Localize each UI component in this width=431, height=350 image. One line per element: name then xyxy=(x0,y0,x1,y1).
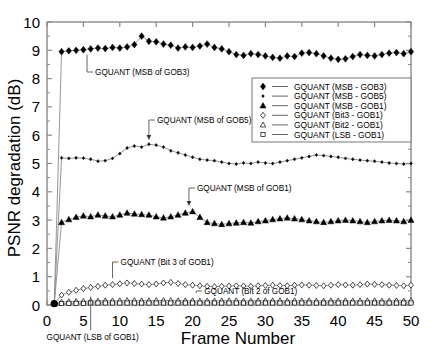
legend-item-label: GQUANT (Bit3 - GOB1) xyxy=(294,110,383,120)
chart-legend[interactable]: GQUANT (MSB - GOB3)GQUANT (MSB - GOB5)GQ… xyxy=(252,78,411,142)
data-point-marker xyxy=(118,301,122,305)
y-tick-label: 2 xyxy=(32,240,40,257)
legend-item-label: GQUANT (LSB - GOB1) xyxy=(294,130,384,140)
data-point-marker xyxy=(183,301,187,305)
data-point-marker xyxy=(176,301,180,305)
y-tick-label: 5 xyxy=(32,155,40,172)
data-point-marker xyxy=(205,301,209,305)
data-point-marker xyxy=(110,301,114,305)
data-point-marker xyxy=(103,301,107,305)
y-tick-label: 9 xyxy=(32,42,40,59)
data-point-marker xyxy=(336,301,340,305)
data-point-marker xyxy=(161,301,165,305)
legend-item-label: GQUANT (MSB - GOB5) xyxy=(294,91,387,101)
annotation-label-bit3: GQUANT (Bit 3 of GOB1) xyxy=(121,258,214,267)
data-point-marker xyxy=(234,301,238,305)
x-tick-label: 10 xyxy=(111,312,128,329)
legend-item-label: GQUANT (MSB - GOB3) xyxy=(294,82,387,92)
annotation-label-gob3: GQUANT (MSB of GOB3) xyxy=(95,68,190,77)
data-point-marker xyxy=(132,301,136,305)
data-point-marker xyxy=(402,301,406,305)
data-point-marker xyxy=(329,301,333,305)
data-point-marker xyxy=(241,301,245,305)
annotation-label-gob5: GQUANT (MSB of GOB5) xyxy=(157,116,252,125)
data-point-marker xyxy=(198,301,202,305)
data-point-marker xyxy=(261,132,265,136)
data-point-marker xyxy=(380,301,384,305)
x-tick-label: 5 xyxy=(79,312,87,329)
chart-background xyxy=(0,0,431,350)
data-point-marker xyxy=(314,301,318,305)
chart-figure: 05101520253035404550012345678910 GQUANT … xyxy=(0,0,431,350)
data-point-marker xyxy=(358,301,362,305)
x-tick-label: 45 xyxy=(366,312,383,329)
data-point-marker xyxy=(322,301,326,305)
data-point-marker xyxy=(394,301,398,305)
data-point-marker xyxy=(169,301,173,305)
data-point-marker xyxy=(59,302,63,306)
data-point-marker xyxy=(74,301,78,305)
data-point-marker xyxy=(300,301,304,305)
data-point-marker xyxy=(147,301,151,305)
x-tick-label: 0 xyxy=(43,312,51,329)
x-axis-label: Frame Number xyxy=(181,329,296,348)
data-point-marker xyxy=(409,301,413,305)
origin-marker xyxy=(51,300,58,307)
annotation-label-gob1-msb: GQUANT (MSB of GOB1) xyxy=(197,184,292,193)
data-point-marker xyxy=(256,301,260,305)
x-tick-label: 15 xyxy=(148,312,165,329)
data-point-marker xyxy=(263,301,267,305)
data-point-marker xyxy=(373,301,377,305)
data-point-marker xyxy=(220,301,224,305)
data-point-marker xyxy=(81,301,85,305)
legend-item-label: GQUANT (Bit2 - GOB1) xyxy=(294,120,383,130)
data-point-marker xyxy=(307,301,311,305)
data-point-marker xyxy=(212,301,216,305)
data-point-marker xyxy=(387,301,391,305)
data-point-marker xyxy=(278,301,282,305)
data-point-marker xyxy=(351,301,355,305)
y-tick-label: 10 xyxy=(23,14,40,31)
x-tick-label: 40 xyxy=(330,312,347,329)
y-tick-label: 4 xyxy=(32,183,40,200)
y-tick-label: 6 xyxy=(32,127,40,144)
annotation-label-bit2: GQUANT (Bit 2 of GOB1) xyxy=(204,287,297,296)
data-point-marker xyxy=(67,301,71,305)
x-tick-label: 35 xyxy=(293,312,310,329)
y-tick-label: 3 xyxy=(32,212,40,229)
x-tick-label: 25 xyxy=(221,312,238,329)
legend-item-label: GQUANT (MSB - GOB1) xyxy=(294,101,387,111)
data-point-marker xyxy=(271,301,275,305)
y-tick-label: 7 xyxy=(32,98,40,115)
data-point-marker xyxy=(285,301,289,305)
data-point-marker xyxy=(227,301,231,305)
data-point-marker xyxy=(140,301,144,305)
data-point-marker xyxy=(191,301,195,305)
y-tick-label: 0 xyxy=(32,297,40,314)
x-tick-label: 20 xyxy=(184,312,201,329)
x-tick-label: 30 xyxy=(257,312,274,329)
data-point-marker xyxy=(292,301,296,305)
annotation-label-lsb: GQUANT (LSB of GOB1) xyxy=(47,333,139,342)
data-point-marker xyxy=(365,301,369,305)
data-point-marker xyxy=(125,301,129,305)
y-axis-label: PSNR degradation (dB) xyxy=(5,79,24,258)
data-point-marker xyxy=(249,301,253,305)
psnr-degradation-line-chart: 05101520253035404550012345678910 GQUANT … xyxy=(0,0,431,350)
data-point-marker xyxy=(343,301,347,305)
x-tick-label: 50 xyxy=(403,312,420,329)
y-tick-label: 1 xyxy=(32,268,40,285)
y-tick-label: 8 xyxy=(32,70,40,87)
data-point-marker xyxy=(96,301,100,305)
data-point-marker xyxy=(154,301,158,305)
